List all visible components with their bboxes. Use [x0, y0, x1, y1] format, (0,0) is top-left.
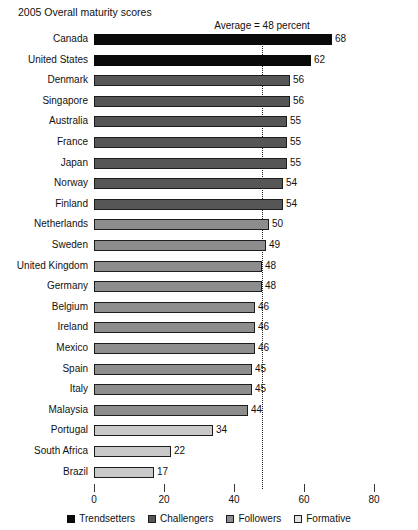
bar-row: Portugal34 [0, 425, 418, 436]
category-label: Denmark [0, 73, 88, 87]
bar-united-kingdom [94, 261, 262, 272]
x-axis-tick-label: 20 [158, 493, 169, 506]
bar-germany [94, 281, 262, 292]
bar-row: Netherlands50 [0, 219, 418, 230]
bar-spain [94, 364, 252, 375]
bar-brazil [94, 467, 154, 478]
bar-malaysia [94, 405, 248, 416]
category-label: Sweden [0, 238, 88, 252]
x-axis-tick-label: 80 [368, 493, 379, 506]
bar-row: Japan55 [0, 158, 418, 169]
bar-italy [94, 384, 252, 395]
bar-value-label: 62 [314, 53, 325, 67]
bar-value-label: 46 [258, 341, 269, 355]
legend-item-followers[interactable]: Followers [226, 512, 281, 525]
bar-norway [94, 178, 283, 189]
chart-legend: TrendsettersChallengersFollowersFormativ… [0, 512, 418, 525]
legend-swatch-trendsetters-icon [67, 515, 75, 523]
x-axis-tick [234, 484, 235, 492]
x-axis-tick-label: 0 [91, 493, 97, 506]
bar-ireland [94, 322, 255, 333]
category-label: Australia [0, 114, 88, 128]
bar-value-label: 49 [269, 238, 280, 252]
bar-row: Norway54 [0, 178, 418, 189]
legend-label: Followers [238, 512, 281, 525]
bar-row: Canada68 [0, 34, 418, 45]
category-label: France [0, 135, 88, 149]
bar-row: United Kingdom48 [0, 261, 418, 272]
bar-value-label: 56 [293, 73, 304, 87]
legend-swatch-formative-icon [294, 515, 302, 523]
category-label: Spain [0, 362, 88, 376]
bar-row: Germany48 [0, 281, 418, 292]
category-label: Germany [0, 279, 88, 293]
bar-value-label: 45 [255, 362, 266, 376]
bar-value-label: 54 [286, 176, 297, 190]
category-label: Brazil [0, 465, 88, 479]
plot-area: Canada68United States62Denmark56Singapor… [0, 0, 418, 530]
category-label: Netherlands [0, 217, 88, 231]
bar-row: Malaysia44 [0, 405, 418, 416]
legend-label: Challengers [160, 512, 213, 525]
legend-item-trendsetters[interactable]: Trendsetters [67, 512, 135, 525]
x-axis-tick [304, 484, 305, 492]
bar-value-label: 48 [265, 259, 276, 273]
legend-label: Trendsetters [79, 512, 135, 525]
legend-swatch-followers-icon [226, 515, 234, 523]
bar-value-label: 48 [265, 279, 276, 293]
x-axis-tick-label: 60 [298, 493, 309, 506]
category-label: South Africa [0, 444, 88, 458]
category-label: Singapore [0, 94, 88, 108]
category-label: Norway [0, 176, 88, 190]
bar-canada [94, 34, 332, 45]
legend-item-challengers[interactable]: Challengers [148, 512, 213, 525]
bar-value-label: 34 [216, 423, 227, 437]
bar-value-label: 55 [290, 114, 301, 128]
bar-value-label: 46 [258, 300, 269, 314]
bar-value-label: 44 [251, 403, 262, 417]
legend-item-formative[interactable]: Formative [294, 512, 350, 525]
legend-swatch-challengers-icon [148, 515, 156, 523]
x-axis-tick [164, 484, 165, 492]
bar-value-label: 45 [255, 382, 266, 396]
bar-belgium [94, 302, 255, 313]
bar-value-label: 55 [290, 156, 301, 170]
category-label: United States [0, 53, 88, 67]
category-label: Mexico [0, 341, 88, 355]
bar-netherlands [94, 219, 269, 230]
bar-row: Singapore56 [0, 96, 418, 107]
category-label: Malaysia [0, 403, 88, 417]
bar-row: Sweden49 [0, 240, 418, 251]
category-label: Ireland [0, 320, 88, 334]
bar-denmark [94, 75, 290, 86]
bar-row: France55 [0, 137, 418, 148]
category-label: Finland [0, 197, 88, 211]
bar-united-states [94, 55, 311, 66]
x-axis-tick-label: 40 [228, 493, 239, 506]
bar-row: Finland54 [0, 199, 418, 210]
bar-south-africa [94, 446, 171, 457]
bar-australia [94, 116, 287, 127]
category-label: Canada [0, 32, 88, 46]
bar-japan [94, 158, 287, 169]
x-axis-tick [94, 484, 95, 492]
bar-value-label: 22 [174, 444, 185, 458]
bar-value-label: 46 [258, 320, 269, 334]
bar-portugal [94, 425, 213, 436]
category-label: United Kingdom [0, 259, 88, 273]
bar-row: Ireland46 [0, 322, 418, 333]
bar-value-label: 56 [293, 94, 304, 108]
bar-row: United States62 [0, 55, 418, 66]
bar-value-label: 17 [157, 465, 168, 479]
bar-france [94, 137, 287, 148]
category-label: Belgium [0, 300, 88, 314]
legend-label: Formative [306, 512, 350, 525]
bar-row: Brazil17 [0, 467, 418, 478]
x-axis-tick [374, 484, 375, 492]
category-label: Japan [0, 156, 88, 170]
bar-row: Spain45 [0, 364, 418, 375]
bar-sweden [94, 240, 266, 251]
bar-row: South Africa22 [0, 446, 418, 457]
bar-value-label: 54 [286, 197, 297, 211]
category-label: Italy [0, 382, 88, 396]
